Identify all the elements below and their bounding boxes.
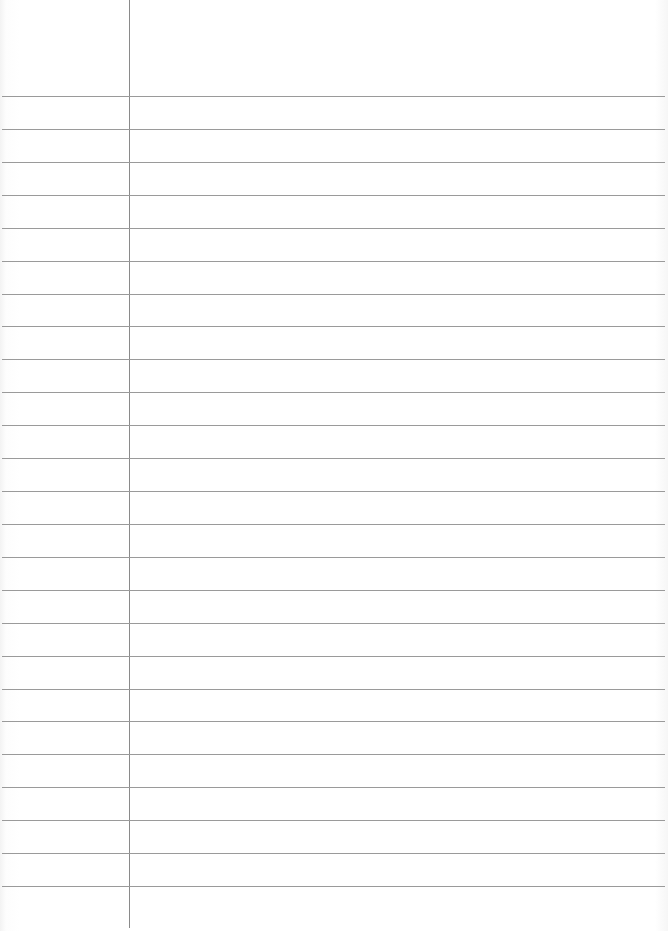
ruled-line <box>2 853 665 854</box>
ruled-line <box>2 656 665 657</box>
ruled-line <box>2 129 665 130</box>
ruled-line <box>2 261 665 262</box>
ruled-line <box>2 754 665 755</box>
margin-line <box>129 0 130 928</box>
ruled-line <box>2 294 665 295</box>
ruled-line <box>2 392 665 393</box>
ruled-line <box>2 689 665 690</box>
ruled-line <box>2 787 665 788</box>
ruled-line <box>2 458 665 459</box>
lined-paper: Blank ruled notebook paper <box>0 0 668 931</box>
ruled-line <box>2 359 665 360</box>
ruled-line <box>2 491 665 492</box>
ruled-line <box>2 721 665 722</box>
ruled-line <box>2 96 665 97</box>
ruled-line <box>2 228 665 229</box>
ruled-line <box>2 195 665 196</box>
ruled-line <box>2 425 665 426</box>
ruled-line <box>2 590 665 591</box>
ruled-line <box>2 820 665 821</box>
ruled-line <box>2 524 665 525</box>
ruled-line <box>2 623 665 624</box>
ruled-line <box>2 162 665 163</box>
ruled-line <box>2 326 665 327</box>
ruled-line <box>2 557 665 558</box>
ruled-line <box>2 886 665 887</box>
